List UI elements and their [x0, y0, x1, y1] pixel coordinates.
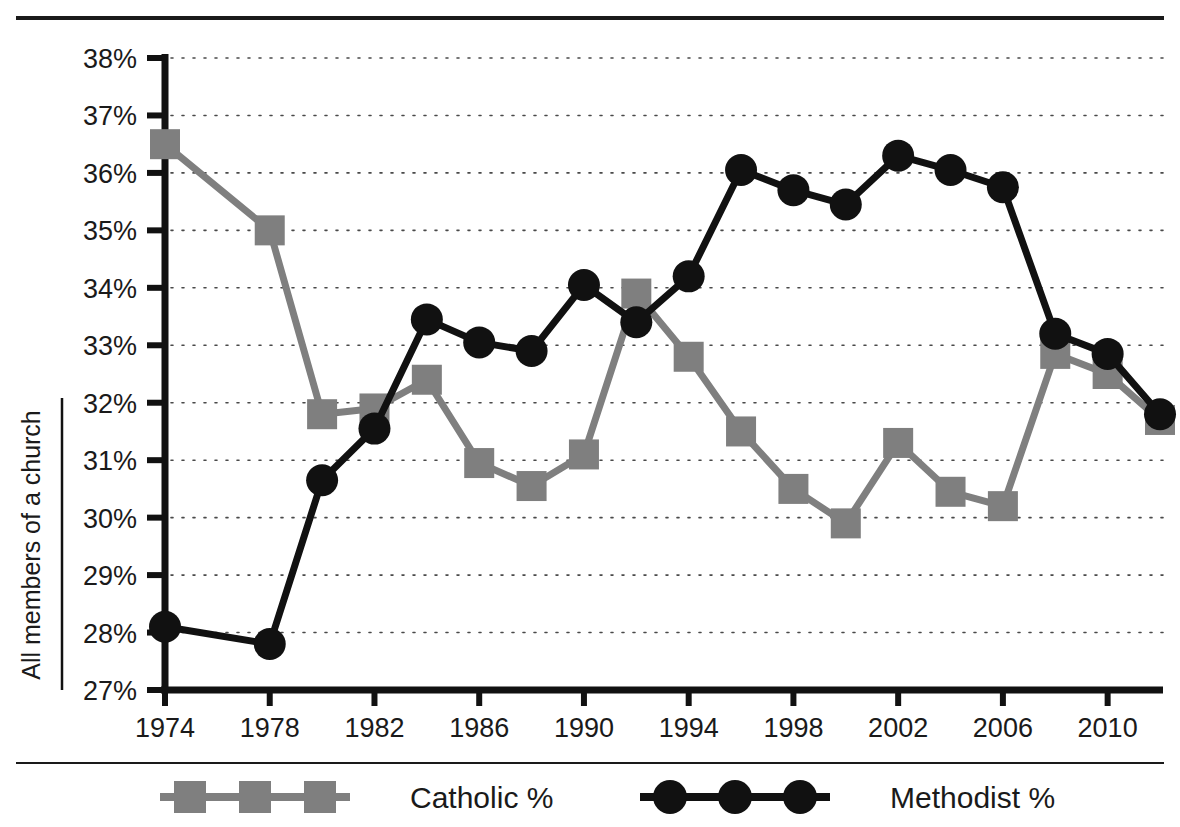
legend-item-catholic[interactable]: Catholic % — [160, 781, 553, 814]
x-axis-tick-label: 1990 — [554, 713, 614, 743]
data-point-marker — [831, 508, 861, 538]
data-point-marker — [1144, 398, 1176, 430]
y-axis-tick-label: 37% — [83, 101, 137, 131]
y-axis-tick-label: 34% — [83, 274, 137, 304]
chart-figure: 38%37%36%35%34%33%32%31%30%29%28%27% 197… — [0, 0, 1180, 827]
y-axis-title: All members of a church — [17, 410, 45, 680]
x-axis-tick-labels-group: 1974197819821986199019941998200220062010 — [135, 713, 1138, 743]
x-axis-tick-label: 1978 — [240, 713, 300, 743]
data-point-marker — [674, 342, 704, 372]
data-point-marker — [306, 464, 338, 496]
y-axis-tick-label: 28% — [83, 619, 137, 649]
data-point-marker — [463, 326, 495, 358]
chart-legend: Catholic %Methodist % — [160, 780, 1055, 814]
legend-label: Methodist % — [890, 781, 1055, 814]
series-catholic — [150, 129, 1175, 538]
x-axis-tick-label: 2002 — [868, 713, 928, 743]
x-axis-tick-label: 1986 — [449, 713, 509, 743]
y-axis-tick-labels-group: 38%37%36%35%34%33%32%31%30%29%28%27% — [83, 44, 137, 706]
data-point-marker — [778, 474, 808, 504]
data-point-marker — [307, 399, 337, 429]
y-axis-tick-label: 32% — [83, 389, 137, 419]
x-axis-tick-label: 1998 — [763, 713, 823, 743]
data-point-marker — [987, 171, 1019, 203]
data-point-marker — [726, 416, 756, 446]
legend-marker — [174, 781, 206, 813]
data-point-marker — [936, 477, 966, 507]
y-axis-tick-label: 38% — [83, 44, 137, 74]
data-point-marker — [988, 491, 1018, 521]
data-point-marker — [620, 306, 652, 338]
data-point-marker — [255, 215, 285, 245]
line-chart-canvas: 38%37%36%35%34%33%32%31%30%29%28%27% 197… — [0, 0, 1180, 827]
x-axis-tick-label: 2010 — [1078, 713, 1138, 743]
y-axis-tick-label: 27% — [83, 676, 137, 706]
data-series-group — [149, 129, 1176, 660]
data-point-marker — [935, 154, 967, 186]
legend-label: Catholic % — [410, 781, 553, 814]
y-axis-tick-label: 30% — [83, 504, 137, 534]
data-point-marker — [464, 448, 494, 478]
data-point-marker — [411, 303, 443, 335]
x-axis-tick-label: 1974 — [135, 713, 195, 743]
data-point-marker — [149, 611, 181, 643]
data-point-marker — [621, 279, 651, 309]
data-point-marker — [516, 335, 548, 367]
y-axis-tick-label: 33% — [83, 331, 137, 361]
legend-item-methodist[interactable]: Methodist % — [640, 780, 1055, 814]
y-axis-tick-label: 31% — [83, 446, 137, 476]
data-point-marker — [777, 174, 809, 206]
data-point-marker — [882, 140, 914, 172]
x-axis-tick-label: 1982 — [344, 713, 404, 743]
data-point-marker — [1039, 318, 1071, 350]
data-point-marker — [517, 471, 547, 501]
data-point-marker — [254, 628, 286, 660]
x-axis-tick-label: 1994 — [659, 713, 719, 743]
legend-marker — [304, 781, 336, 813]
data-point-marker — [150, 129, 180, 159]
legend-marker — [653, 780, 687, 814]
data-point-marker — [725, 154, 757, 186]
data-point-marker — [568, 269, 600, 301]
x-axis-tick-label: 2006 — [973, 713, 1033, 743]
data-point-marker — [673, 260, 705, 292]
legend-marker — [239, 781, 271, 813]
data-point-marker — [358, 413, 390, 445]
y-axis-tick-label: 35% — [83, 216, 137, 246]
y-axis-tick-label: 29% — [83, 561, 137, 591]
data-point-marker — [412, 365, 442, 395]
gridlines-group — [171, 58, 1163, 633]
y-axis-tick-label: 36% — [83, 159, 137, 189]
data-point-marker — [830, 189, 862, 221]
legend-marker — [783, 780, 817, 814]
series-methodist — [149, 140, 1176, 660]
legend-marker — [718, 780, 752, 814]
data-point-marker — [569, 439, 599, 469]
data-point-marker — [1092, 338, 1124, 370]
data-point-marker — [883, 428, 913, 458]
